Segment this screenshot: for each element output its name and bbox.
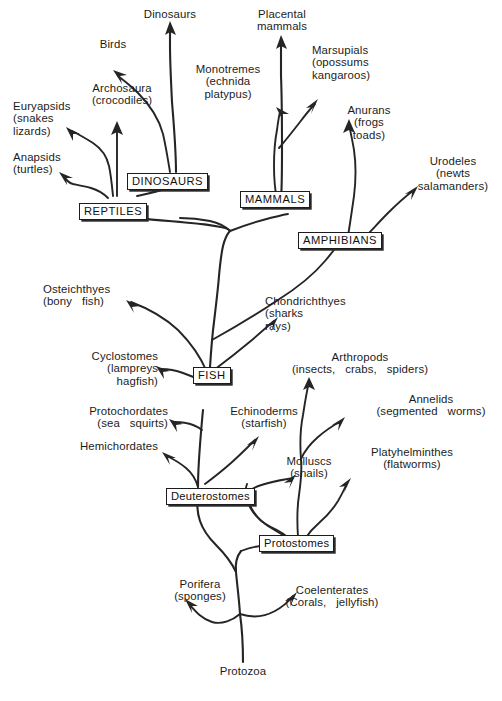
taxon-label-annelids: Annelids (segmented worms) xyxy=(365,393,497,418)
clade-label-protostomes[interactable]: Protostomes xyxy=(259,535,334,552)
clade-label-deuterostomes[interactable]: Deuterostomes xyxy=(166,488,255,505)
arrowhead-arthropods xyxy=(303,377,315,390)
branch-mammals-placental xyxy=(281,40,282,200)
branch-fish-trunk-up xyxy=(210,276,219,367)
taxon-label-birds: Birds xyxy=(86,38,140,50)
taxon-label-placental-mammals: Placental mammals xyxy=(246,8,318,33)
arrowhead-hemichordates xyxy=(162,452,176,465)
taxon-label-osteichthyes: Osteichthyes (bony fish) xyxy=(43,283,133,308)
taxon-label-anurans: Anurans (frogs toads) xyxy=(340,104,398,141)
branch-mammals-monotremes xyxy=(274,112,280,200)
branch-dinosaurs-tip xyxy=(170,26,176,172)
branch-protostomes-platyhelminthes xyxy=(304,483,347,540)
taxon-label-urodeles: Urodeles (newts salamanders) xyxy=(407,155,499,192)
branch-protozoa-stem xyxy=(240,614,243,662)
arrowhead-protochordates xyxy=(169,419,183,432)
arrowhead-annelids xyxy=(332,417,345,431)
branch-mammals-marsupials xyxy=(279,104,315,148)
taxon-label-molluscs: Molluscs (snails) xyxy=(278,455,340,480)
taxon-label-euryapsids: Euryapsids (snakes lizards) xyxy=(13,100,83,137)
branch-deuterostomes-echinoderms xyxy=(205,440,255,484)
clade-label-dinosaurs[interactable]: DINOSAURS xyxy=(127,173,208,190)
branch-trunk-mammals xyxy=(230,214,288,231)
taxon-label-cyclostomes: Cyclostomes (lampreys hagfish) xyxy=(68,350,158,387)
taxon-label-dinosaurs: Dinosaurs xyxy=(132,8,208,20)
branch-trunk-to-deuterostomes xyxy=(197,499,236,572)
taxon-label-chondrichthyes: Chondrichthyes (sharks rays) xyxy=(265,295,369,332)
taxon-label-anapsids: Anapsids (turtles) xyxy=(13,151,83,176)
branch-amphibians-urodeles xyxy=(366,190,414,236)
branch-protozoa-porifera xyxy=(189,604,240,623)
taxon-label-coelenterates: Coelenterates (Corals, jellyfish) xyxy=(262,584,402,609)
taxon-label-arthropods: Arthropods (insects, crabs, spiders) xyxy=(264,351,456,376)
arrowhead-echinoderms xyxy=(247,436,259,451)
clade-label-amphibians[interactable]: AMPHIBIANS xyxy=(298,232,382,249)
taxon-label-porifera: Porifera (sponges) xyxy=(163,578,237,603)
branch-reptiles-anapsids xyxy=(64,176,108,198)
branch-protostomes-annelids xyxy=(301,421,341,459)
taxon-label-archosaura: Archosaura (crocodiles) xyxy=(78,82,166,107)
arrowhead-cyclostomes xyxy=(156,366,170,379)
taxon-label-platyhelminthes: Platyhelminthes (flatworms) xyxy=(358,446,466,471)
arrowhead-platyhelminthes xyxy=(339,478,351,493)
branch-deuterostomes-hemichordates xyxy=(167,456,198,487)
taxon-label-protochordates: Protochordates (sea squirts) xyxy=(62,405,168,430)
branch-deuterostomes-trunk-up xyxy=(198,410,203,487)
taxon-label-monotremes: Monotremes (echnida platypus) xyxy=(184,63,272,100)
branch-trunk-to-tetrapods xyxy=(219,231,230,276)
clade-label-reptiles[interactable]: REPTILES xyxy=(79,203,147,220)
taxon-label-protozoa: Protozoa xyxy=(205,665,281,677)
taxon-label-marsupials: Marsupials (opossums kangaroos) xyxy=(312,44,404,81)
phylogenetic-tree-diagram: REPTILES DINOSAURS MAMMALS AMPHIBIANS FI… xyxy=(0,0,502,701)
clade-label-mammals[interactable]: MAMMALS xyxy=(240,191,310,208)
taxon-label-hemichordates: Hemichordates xyxy=(52,440,158,452)
clade-label-fish[interactable]: FISH xyxy=(193,367,231,384)
taxon-label-echinoderms: Echinoderms (starfish) xyxy=(222,405,306,430)
